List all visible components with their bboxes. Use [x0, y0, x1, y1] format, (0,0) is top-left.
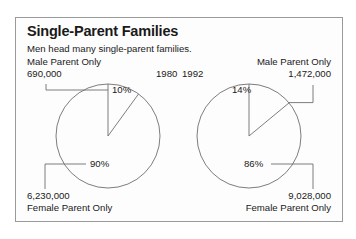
- right-female-leader-line: [271, 164, 313, 189]
- left-male-parent-count: 690,000: [27, 68, 62, 80]
- right-male-parent-count: 1,472,000: [288, 68, 331, 80]
- right-wedge-end-radius: [249, 103, 289, 136]
- right-female-parent-count: 9,028,000: [288, 190, 331, 202]
- left-female-percent: 90%: [90, 158, 109, 169]
- left-male-percent: 10%: [112, 84, 131, 95]
- left-female-parent-label: Female Parent Only: [27, 202, 112, 214]
- right-male-percent: 14%: [232, 84, 251, 95]
- left-female-parent-count: 6,230,000: [27, 190, 70, 202]
- infographic-panel: Single-Parent Families Men head many sin…: [15, 17, 343, 222]
- right-female-parent-label: Female Parent Only: [246, 202, 331, 214]
- left-female-leader-line: [45, 164, 86, 189]
- left-wedge-end-radius: [108, 94, 139, 136]
- right-year-label: 1992: [182, 68, 203, 80]
- left-male-parent-label: Male Parent Only: [27, 56, 101, 68]
- right-female-percent: 86%: [244, 158, 263, 169]
- right-male-leader-line: [289, 85, 313, 103]
- left-year-label: 1980: [156, 68, 177, 80]
- right-male-parent-label: Male Parent Only: [257, 56, 331, 68]
